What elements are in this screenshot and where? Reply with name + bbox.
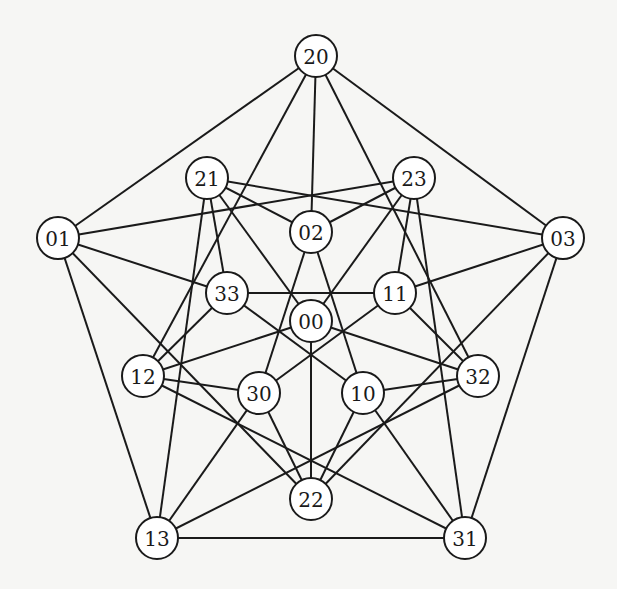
- node-label: 13: [144, 527, 169, 551]
- node-30: 30: [238, 372, 280, 414]
- edge-01-22: [58, 238, 311, 499]
- node-33: 33: [206, 272, 248, 314]
- node-label: 03: [550, 227, 575, 251]
- edge-01-23: [58, 178, 414, 238]
- node-label: 20: [303, 45, 328, 69]
- node-02: 02: [290, 211, 332, 253]
- node-12: 12: [122, 355, 164, 397]
- node-03: 03: [542, 217, 584, 259]
- node-label: 30: [246, 382, 271, 406]
- node-11: 11: [374, 272, 416, 314]
- node-label: 22: [298, 488, 323, 512]
- node-label: 11: [382, 282, 407, 306]
- node-label: 10: [350, 382, 375, 406]
- node-01: 01: [37, 217, 79, 259]
- node-label: 12: [130, 365, 155, 389]
- node-label: 01: [45, 227, 70, 251]
- edge-20-02: [311, 56, 316, 232]
- node-00: 00: [290, 300, 332, 342]
- nodes-layer: 20212302010333110012301032221331: [37, 35, 584, 559]
- node-label: 00: [298, 310, 323, 334]
- edge-10-31: [363, 393, 465, 538]
- node-10: 10: [342, 372, 384, 414]
- graph-diagram: 20212302010333110012301032221331: [0, 0, 617, 589]
- edge-03-22: [311, 238, 563, 499]
- node-label: 21: [194, 167, 219, 191]
- node-label: 32: [465, 365, 490, 389]
- edges-layer: [58, 56, 563, 538]
- edge-20-01: [58, 56, 316, 238]
- node-20: 20: [295, 35, 337, 77]
- node-label: 33: [214, 282, 239, 306]
- node-32: 32: [457, 355, 499, 397]
- node-label: 02: [298, 221, 323, 245]
- edge-03-21: [207, 178, 563, 238]
- node-label: 31: [452, 527, 477, 551]
- node-22: 22: [290, 478, 332, 520]
- node-13: 13: [136, 517, 178, 559]
- node-31: 31: [444, 517, 486, 559]
- node-23: 23: [393, 157, 435, 199]
- edge-00-32: [311, 321, 478, 376]
- node-21: 21: [186, 157, 228, 199]
- edge-30-13: [157, 393, 259, 538]
- node-label: 23: [401, 167, 426, 191]
